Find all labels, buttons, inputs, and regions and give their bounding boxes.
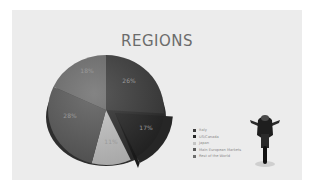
motorcycle-image xyxy=(0,0,317,186)
